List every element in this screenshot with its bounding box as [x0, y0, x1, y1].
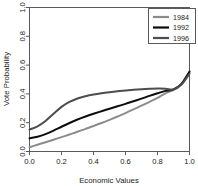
x-axis-ticks — [30, 152, 190, 156]
y-tick-label: 0.6 — [18, 60, 27, 71]
y-tick-label: 0.0 — [18, 146, 27, 157]
x-tick-label: 1.0 — [184, 157, 195, 166]
y-axis-title: Vote Probability — [2, 52, 11, 106]
y-tick-label: 0.4 — [18, 89, 27, 100]
x-tick-label: 0.4 — [88, 157, 99, 166]
chart-figure: 0.00.20.40.60.81.0 0.00.20.40.60.81.0 Ec… — [0, 0, 198, 186]
y-tick-label: 1.0 — [18, 2, 27, 13]
x-axis-tick-labels: 0.00.20.40.60.81.0 — [24, 157, 195, 166]
x-tick-label: 0.0 — [24, 157, 35, 166]
y-tick-label: 0.8 — [18, 31, 27, 42]
y-tick-label: 0.2 — [18, 117, 27, 128]
x-axis-title: Economic Values — [79, 176, 139, 185]
legend-label-1996: 1996 — [173, 34, 189, 43]
legend-label-1984: 1984 — [173, 13, 189, 22]
y-axis-tick-labels: 0.00.20.40.60.81.0 — [18, 2, 27, 157]
x-tick-label: 0.6 — [120, 157, 131, 166]
x-tick-label: 0.2 — [56, 157, 67, 166]
x-tick-label: 0.8 — [152, 157, 163, 166]
legend-label-1992: 1992 — [173, 23, 189, 32]
chart-legend: 198419921996 — [149, 9, 196, 44]
line-chart: 0.00.20.40.60.81.0 0.00.20.40.60.81.0 Ec… — [0, 0, 198, 186]
